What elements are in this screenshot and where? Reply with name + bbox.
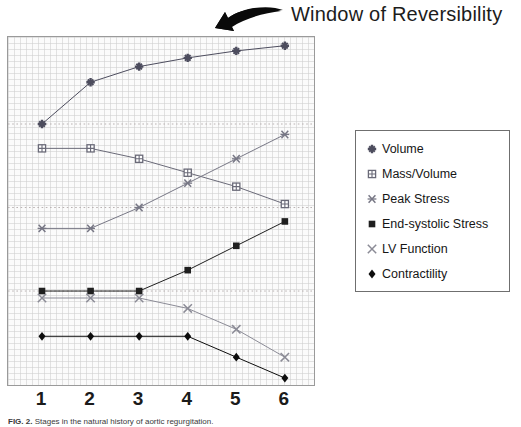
- filled-diamond-marker: [369, 269, 376, 278]
- filled-diamond-marker: [233, 353, 240, 362]
- plus-star-marker: [135, 62, 143, 70]
- plus-star-marker: [184, 54, 192, 62]
- series-line-lv-function: [42, 298, 285, 357]
- curved-arrow-icon: [215, 6, 285, 36]
- asterisk-marker: [362, 191, 382, 207]
- legend-item-volume[interactable]: Volume: [362, 136, 505, 161]
- series-line-contractility: [42, 336, 285, 378]
- x-tick-label-2: 2: [79, 388, 101, 410]
- x-tick-label-3: 3: [127, 388, 149, 410]
- filled-square-marker: [184, 267, 191, 274]
- filled-diamond-marker: [87, 332, 94, 341]
- x-cross-marker: [362, 241, 382, 257]
- asterisk-marker: [232, 155, 241, 162]
- x-cross-marker: [281, 353, 289, 361]
- legend-item-label: Peak Stress: [382, 192, 449, 206]
- filled-diamond-marker: [184, 332, 191, 341]
- plot-series-layer: [8, 37, 314, 385]
- figure-root: Window of Reversibility 123456 VolumeMas…: [0, 0, 521, 427]
- asterisk-marker: [86, 225, 95, 232]
- x-cross-marker: [368, 244, 376, 252]
- asterisk-marker: [280, 131, 289, 138]
- filled-square-marker: [87, 288, 94, 295]
- open-square-marker: [38, 145, 45, 152]
- legend-item-label: Contractility: [382, 267, 447, 281]
- x-axis-labels: 123456: [7, 388, 315, 414]
- x-tick-label-4: 4: [176, 388, 198, 410]
- asterisk-marker: [38, 225, 47, 232]
- filled-diamond-marker: [39, 332, 46, 341]
- filled-diamond-marker: [362, 266, 382, 282]
- open-square-marker: [281, 200, 288, 207]
- legend-item-mass-volume[interactable]: Mass/Volume: [362, 161, 505, 186]
- plot-area: [7, 36, 315, 386]
- x-tick-label-6: 6: [273, 388, 295, 410]
- filled-square-marker: [39, 288, 46, 295]
- page-title: Window of Reversibility: [291, 3, 502, 26]
- legend-item-contractility[interactable]: Contractility: [362, 261, 505, 286]
- filled-diamond-marker: [136, 332, 143, 341]
- x-tick-label-5: 5: [224, 388, 246, 410]
- open-square-marker: [368, 170, 375, 177]
- plus-star-marker: [281, 42, 289, 50]
- asterisk-marker: [368, 195, 377, 202]
- legend-item-label: End-systolic Stress: [382, 217, 488, 231]
- legend-item-lv-function[interactable]: LV Function: [362, 236, 505, 261]
- figure-caption-label: FIG. 2.: [8, 417, 32, 426]
- asterisk-marker: [183, 179, 192, 186]
- legend-item-end-systolic-stress[interactable]: End-systolic Stress: [362, 211, 505, 236]
- plus-star-marker: [362, 141, 382, 157]
- figure-caption: FIG. 2. Stages in the natural history of…: [8, 417, 518, 427]
- legend-item-label: Volume: [382, 142, 424, 156]
- legend-item-label: Mass/Volume: [382, 167, 457, 181]
- chart-title-area: Window of Reversibility: [215, 2, 521, 36]
- series-line-volume: [42, 46, 285, 124]
- filled-square-marker: [233, 243, 240, 250]
- open-square-marker: [184, 169, 191, 176]
- figure-caption-text: Stages in the natural history of aortic …: [35, 417, 214, 426]
- chart-legend: VolumeMass/VolumePeak StressEnd-systolic…: [355, 130, 510, 292]
- open-square-marker: [87, 145, 94, 152]
- asterisk-marker: [135, 204, 144, 211]
- x-cross-marker: [184, 304, 192, 312]
- x-cross-marker: [232, 325, 240, 333]
- filled-square-marker: [369, 220, 376, 227]
- open-square-marker: [136, 155, 143, 162]
- filled-square-marker: [136, 288, 143, 295]
- filled-diamond-marker: [281, 374, 288, 383]
- open-square-marker: [362, 166, 382, 182]
- legend-item-peak-stress[interactable]: Peak Stress: [362, 186, 505, 211]
- filled-square-marker: [362, 216, 382, 232]
- filled-square-marker: [282, 218, 289, 225]
- series-line-end-systolic-stress: [42, 221, 285, 291]
- legend-item-label: LV Function: [382, 242, 448, 256]
- open-square-marker: [233, 183, 240, 190]
- plus-star-marker: [232, 47, 240, 55]
- plus-star-marker: [368, 144, 376, 152]
- x-tick-label-1: 1: [30, 388, 52, 410]
